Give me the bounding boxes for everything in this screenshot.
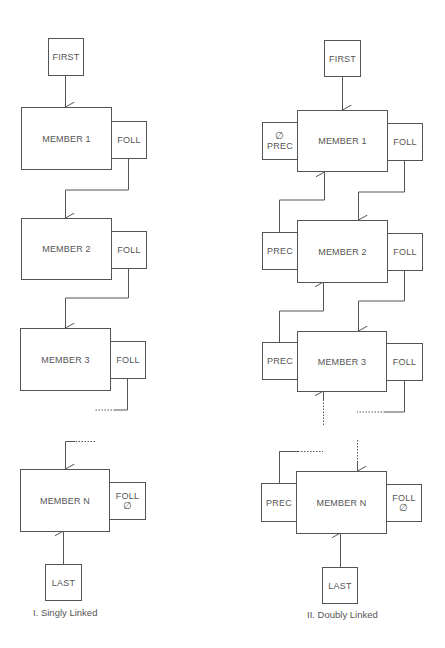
member-label: MEMBER 3 (41, 355, 90, 365)
member-label: MEMBER 2 (42, 244, 91, 254)
foll-label: FOLL (393, 247, 416, 257)
connector-lines (0, 0, 445, 648)
member-3-box: MEMBER 3 (297, 331, 387, 392)
foll-label: FOLL (393, 137, 416, 147)
member-1-box: MEMBER 1 (297, 110, 388, 172)
foll-2-box: FOLL (111, 231, 147, 269)
last-pointer-box: LAST (322, 567, 358, 604)
prec-label: PREC (267, 141, 293, 151)
first-label: FIRST (53, 52, 80, 62)
null-symbol: ∅ (123, 501, 132, 511)
member-label: MEMBER 1 (42, 134, 91, 144)
foll-3-box: FOLL (386, 343, 423, 381)
foll-label: FOLL (117, 135, 140, 145)
member-label: MEMBER 1 (318, 136, 367, 146)
null-symbol: ∅ (275, 131, 284, 141)
member-label: MEMBER 2 (318, 247, 367, 257)
member-2-box: MEMBER 2 (297, 220, 388, 283)
member-n-box: MEMBER N (296, 471, 387, 534)
foll-1-box: FOLL (111, 121, 147, 159)
first-pointer-box: FIRST (48, 38, 84, 76)
foll-label: FOLL (393, 357, 416, 367)
member-1-box: MEMBER 1 (21, 107, 112, 170)
singly-linked-caption: I. Singly Linked (33, 607, 97, 618)
member-label: MEMBER N (40, 496, 90, 506)
foll-n-box: FOLL∅ (109, 482, 146, 520)
doubly-linked-caption: II. Doubly Linked (307, 609, 378, 620)
prec-n-box: PREC (261, 483, 297, 522)
prec-label: PREC (267, 356, 293, 366)
member-n-box: MEMBER N (20, 469, 110, 532)
member-label: MEMBER 3 (318, 357, 367, 367)
member-3-box: MEMBER 3 (20, 328, 111, 391)
foll-label: FOLL (117, 245, 140, 255)
foll-2-box: FOLL (387, 233, 423, 271)
prec-label: PREC (267, 246, 293, 256)
last-label: LAST (52, 578, 75, 588)
foll-3-box: FOLL (110, 341, 146, 379)
last-pointer-box: LAST (45, 564, 82, 601)
member-label: MEMBER N (316, 498, 366, 508)
null-symbol: ∅ (399, 503, 408, 513)
first-pointer-box: FIRST (324, 40, 361, 77)
first-label: FIRST (329, 54, 356, 64)
prec-label: PREC (266, 498, 292, 508)
last-label: LAST (328, 581, 351, 591)
foll-label: FOLL (116, 355, 139, 365)
foll-n-box: FOLL∅ (386, 484, 422, 522)
prec-1-box: ∅PREC (262, 122, 298, 160)
member-2-box: MEMBER 2 (21, 218, 112, 280)
foll-1-box: FOLL (387, 123, 423, 161)
prec-3-box: PREC (262, 342, 298, 380)
prec-2-box: PREC (262, 232, 298, 270)
